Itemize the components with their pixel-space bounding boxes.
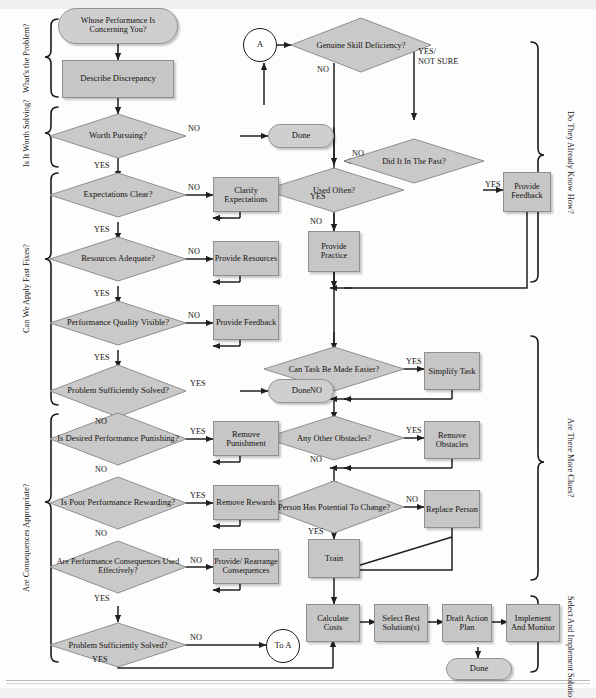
edge-label-yes-notsure-2: NOT SURE: [418, 57, 458, 66]
bracket-left-4: [45, 414, 58, 662]
node-select-best-solutions[interactable]: Select Best Solution(s): [374, 604, 428, 642]
diamond-resources: [50, 237, 186, 281]
diamond-rewarding: [50, 477, 186, 529]
edge-label-no: NO: [95, 529, 107, 538]
edge-label-no: NO: [190, 556, 202, 565]
node-describe-discrepancy[interactable]: Describe Discrepancy: [62, 60, 174, 98]
node-simplify-task[interactable]: Simplify Task: [424, 352, 480, 390]
diamond-obstacles: [264, 416, 404, 460]
edge-label-yes: YES: [308, 527, 324, 536]
edge-label-no: NO: [190, 633, 202, 642]
edge-label-yes: YES: [406, 426, 422, 435]
group-label-can-we-apply-fast-fixes: Can We Apply Fast Fixes?: [22, 173, 46, 405]
node-remove-rewards[interactable]: Remove Rewards: [213, 485, 279, 520]
node-done-2[interactable]: Done: [268, 379, 334, 403]
node-calculate-costs[interactable]: Calculate Costs: [306, 604, 360, 642]
node-provide-resources[interactable]: Provide Resources: [213, 241, 279, 276]
flowchart-canvas: Whose Performance Is Concerning You? Des…: [0, 0, 596, 698]
diamond-skill: [291, 18, 431, 72]
node-replace-person[interactable]: Replace Person: [424, 490, 480, 528]
edge-label-no: NO: [317, 65, 329, 74]
node-done-3[interactable]: Done: [446, 658, 512, 680]
edge-label-no: NO: [310, 386, 322, 395]
bracket-right-2: [531, 336, 544, 580]
edge-label-no: NO: [95, 417, 107, 426]
edge-label-no: NO: [188, 183, 200, 192]
group-label-is-it-worth-solving: Is It Worth Solving?: [22, 107, 46, 167]
edge-label-no: NO: [188, 311, 200, 320]
node-provide-feedback-1[interactable]: Provide Feedback: [213, 305, 279, 340]
node-done-1[interactable]: Done: [268, 124, 334, 148]
diamond-often: [264, 168, 404, 212]
edge-label-no: NO: [310, 455, 322, 464]
diamond-potential: [264, 481, 404, 533]
diamond-expectations: [50, 173, 186, 217]
edge-label-yes: YES: [94, 225, 110, 234]
diamond-consequences: [50, 541, 186, 593]
edge-label-yes: YES: [485, 180, 501, 189]
edge-label-yes: YES: [310, 192, 326, 201]
bracket-left-3: [45, 173, 58, 405]
bracket-right-1: [531, 42, 544, 282]
group-label-are-there-more-clues: Are There More Clues?: [549, 336, 575, 580]
node-draft-action-plan[interactable]: Draft Action Plan: [442, 604, 492, 642]
node-provide-feedback-2[interactable]: Provide Feedback: [503, 172, 551, 212]
node-train[interactable]: Train: [308, 539, 360, 578]
bracket-left-1: [45, 19, 58, 97]
node-start[interactable]: Whose Performance Is Concerning You?: [58, 8, 178, 44]
group-label-are-consequences-appropriate: Are Consequences Appropriate?: [22, 414, 46, 662]
edge-label-yes: YES: [92, 655, 108, 664]
node-clarify-expectations[interactable]: Clarify Expectations: [213, 177, 279, 212]
edge-label-yes: YES: [406, 357, 422, 366]
edge-label-yes: YES: [94, 594, 110, 603]
diamond-punishing: [50, 413, 186, 465]
node-provide-practice[interactable]: Provide Practice: [308, 231, 360, 272]
edge-label-yes: YES: [94, 289, 110, 298]
node-to-a[interactable]: To A: [266, 629, 300, 663]
diamond-problem-1: [50, 365, 186, 417]
edge-label-no: NO: [406, 495, 418, 504]
edge-label-yes-notsure-1: YES/: [418, 47, 436, 56]
group-label-whats-the-problem: What's the Problem?: [22, 19, 46, 97]
node-remove-obstacles[interactable]: Remove Obstacles: [424, 421, 480, 459]
node-provide-rearrange[interactable]: Provide/ Rearrange Consequences: [213, 549, 279, 584]
edge-label-yes: YES: [94, 353, 110, 362]
edge-label-yes: YES: [190, 491, 206, 500]
diamond-worth: [50, 114, 186, 158]
edge-label-no: NO: [188, 247, 200, 256]
edge-label-yes: YES: [190, 427, 206, 436]
group-label-do-they-already-know-how: Do They Already Know How?: [549, 42, 575, 282]
edge-label-yes: YES: [94, 161, 110, 170]
group-label-select-and-implement-solutions: Select And Implement Solutions: [549, 596, 575, 672]
edge-label-no: NO: [188, 124, 200, 133]
edge-label-yes: YES: [190, 379, 206, 388]
node-remove-punishment[interactable]: Remove Punishment: [213, 421, 279, 456]
diamond-problem-2: [50, 623, 186, 667]
diamond-past: [344, 139, 484, 183]
edge-label-no: NO: [352, 149, 364, 158]
edge-label-no: NO: [310, 217, 322, 226]
edge-label-no: NO: [95, 465, 107, 474]
connector-layer: [0, 0, 596, 698]
diamond-quality: [50, 301, 186, 345]
node-a[interactable]: A: [243, 28, 277, 62]
